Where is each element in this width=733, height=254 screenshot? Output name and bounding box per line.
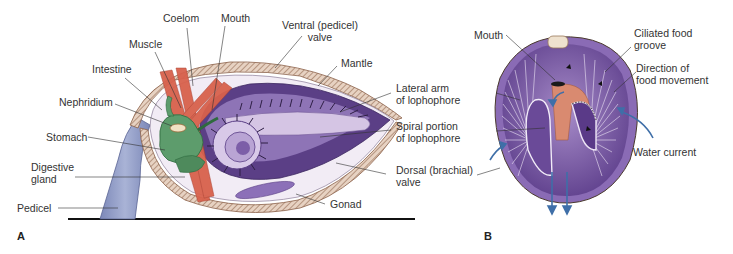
label-ventral-valve: Ventral (pedicel) valve [282, 19, 358, 43]
label-digestive-gland-line2: gland [31, 173, 74, 185]
label-spiral-portion-line2: of lophophore [396, 132, 460, 144]
panel-b-drawing [477, 35, 653, 214]
panel-letter-a: A [17, 230, 25, 242]
label-muscle: Muscle [129, 38, 162, 50]
nephridium-shape [170, 124, 186, 132]
panel-a-drawing [0, 0, 733, 254]
label-ventral-valve-line1: Ventral (pedicel) [282, 19, 358, 31]
label-dorsal-valve-line2: valve [396, 176, 473, 188]
brachiopod-figure: Coelom Mouth Muscle Intestine Nephridium… [0, 0, 733, 254]
label-intestine: Intestine [92, 63, 132, 75]
label-spiral-portion-line1: Spiral portion [396, 120, 460, 132]
label-coelom: Coelom [163, 12, 199, 24]
label-nephridium: Nephridium [59, 96, 113, 108]
hinge [548, 36, 568, 48]
label-mantle: Mantle [341, 57, 373, 69]
label-pedicel: Pedicel [17, 202, 51, 214]
panel-letter-b: B [484, 230, 492, 242]
label-digestive-gland-line1: Digestive [31, 161, 74, 173]
label-dorsal-valve: Dorsal (brachial) valve [396, 164, 473, 188]
label-direction-food-line2: food movement [636, 74, 708, 86]
label-ciliated-groove-line2: groove [634, 39, 692, 51]
label-digestive-gland: Digestive gland [31, 161, 74, 185]
label-mouth-b: Mouth [474, 29, 503, 41]
label-direction-food: Direction of food movement [636, 62, 708, 86]
label-gonad: Gonad [330, 198, 362, 210]
label-mouth-a: Mouth [221, 12, 250, 24]
label-spiral-portion: Spiral portion of lophophore [396, 120, 460, 144]
mouth-b [551, 82, 565, 87]
label-ciliated-groove-line1: Ciliated food [634, 27, 692, 39]
label-ciliated-groove: Ciliated food groove [634, 27, 692, 51]
label-lateral-arm-line1: Lateral arm [396, 82, 460, 94]
label-dorsal-valve-line1: Dorsal (brachial) [396, 164, 473, 176]
label-ventral-valve-line2: valve [282, 31, 358, 43]
label-water-current: Water current [633, 146, 696, 158]
label-lateral-arm-line2: of lophophore [396, 94, 460, 106]
label-direction-food-line1: Direction of [636, 62, 708, 74]
label-lateral-arm: Lateral arm of lophophore [396, 82, 460, 106]
label-stomach: Stomach [46, 131, 87, 143]
